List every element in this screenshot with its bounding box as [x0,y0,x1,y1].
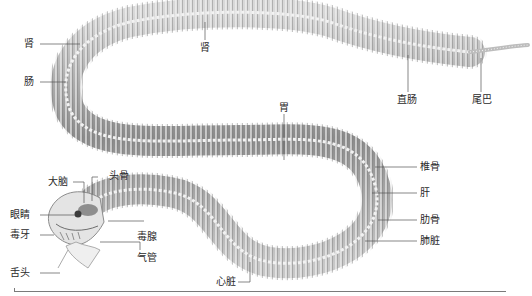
snake-anatomy-diagram: 肾 肠 肾 直肠 尾巴 胃 椎骨 肝 肋骨 肺脏 心脏 大脑 头骨 眼睛 毒牙 … [0,0,532,296]
label-eye: 眼睛 [10,209,30,221]
snake-skeleton-illustration [0,0,532,296]
label-tail: 尾巴 [472,94,492,106]
label-venom-gland: 毒腺 [137,231,157,243]
label-liver: 肝 [420,187,430,199]
label-trachea: 气管 [137,252,157,264]
bottom-divider-tick [14,288,15,292]
label-heart: 心脏 [216,276,236,288]
snake-head [48,192,104,268]
label-skull: 头骨 [109,170,129,182]
label-kidney-left: 肾 [24,38,34,50]
label-stomach: 胃 [279,102,289,114]
snake-body [66,12,528,263]
label-intestine: 肠 [24,76,34,88]
label-fang: 毒牙 [10,229,30,241]
label-rib: 肋骨 [420,214,440,226]
label-lung: 肺脏 [420,235,440,247]
label-tongue: 舌头 [10,267,30,279]
label-vertebra: 椎骨 [420,161,440,173]
label-brain: 大脑 [48,176,68,188]
label-rectum: 直肠 [397,94,417,106]
label-kidney-mid: 肾 [200,42,210,54]
bottom-divider [14,291,506,292]
